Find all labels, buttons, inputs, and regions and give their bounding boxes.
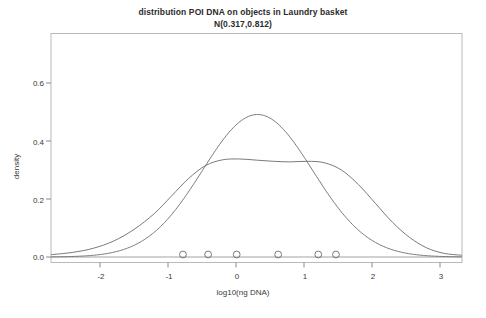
normal-density-curve	[51, 115, 462, 257]
plot-canvas	[0, 0, 486, 318]
plot-border	[51, 34, 462, 263]
kde-density-curve	[51, 159, 462, 255]
axis-tick-marks	[46, 83, 462, 268]
density-plot-figure: distribution POI DNA on objects in Laund…	[0, 0, 486, 318]
